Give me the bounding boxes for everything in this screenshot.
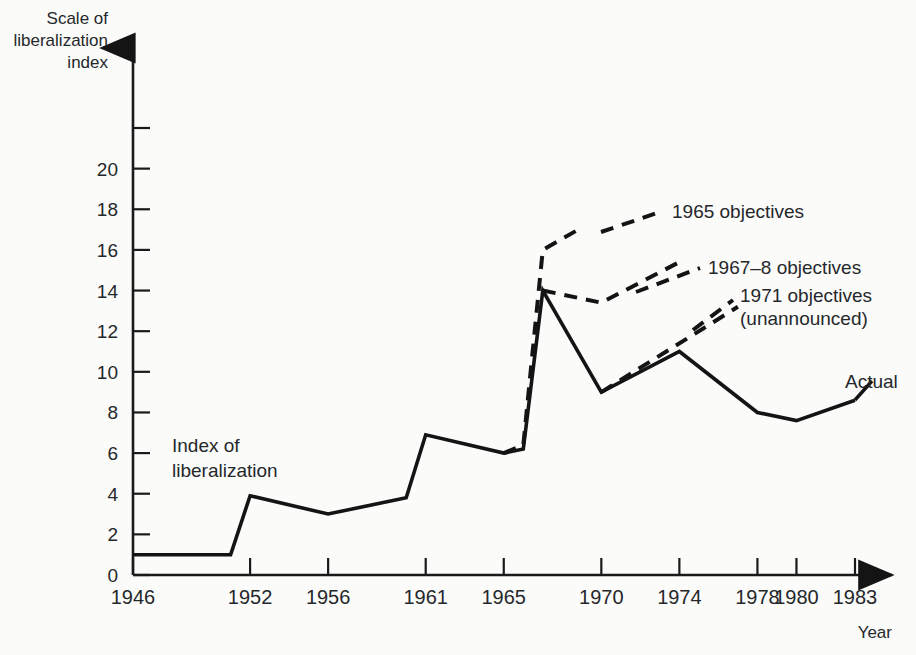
- x-tick-label-1978: 1978: [735, 586, 780, 608]
- 1965-objectives-label: 1965 objectives: [672, 201, 804, 222]
- y-tick-label-0: 0: [107, 565, 118, 586]
- x-axis-tick-labels: 1946195219561961196519701974197819801983: [111, 586, 878, 608]
- y-tick-label-6: 6: [107, 443, 118, 464]
- actual-label: Actual: [845, 371, 898, 392]
- y-axis-title-line-2: liberalization: [14, 31, 109, 50]
- 1971-objectives-label-line-2: (unannounced): [740, 308, 868, 329]
- y-tick-label-12: 12: [97, 321, 118, 342]
- x-tick-label-1946: 1946: [111, 586, 156, 608]
- y-axis-ticks: [133, 128, 150, 575]
- inner-note-line-1: Index of: [172, 435, 240, 456]
- y-axis-title-line-3: index: [67, 53, 108, 72]
- x-tick-label-1961: 1961: [403, 586, 448, 608]
- x-tick-label-1974: 1974: [657, 586, 702, 608]
- y-axis-title-line-1: Scale of: [47, 9, 109, 28]
- leader-1971-objectives: [693, 300, 733, 330]
- y-tick-label-18: 18: [97, 199, 118, 220]
- leader-1965-objectives: [601, 211, 663, 232]
- y-tick-label-20: 20: [97, 159, 118, 180]
- chart-canvas: 02468101214161820 1946195219561961196519…: [0, 0, 916, 655]
- series-line-actual: [133, 291, 855, 555]
- x-tick-label-1956: 1956: [306, 586, 351, 608]
- x-tick-label-1970: 1970: [579, 586, 624, 608]
- leader-1967-8-objectives: [636, 268, 700, 292]
- x-tick-label-1980: 1980: [774, 586, 819, 608]
- y-tick-label-16: 16: [97, 240, 118, 261]
- 1967-8-objectives-label: 1967–8 objectives: [708, 257, 861, 278]
- x-tick-label-1952: 1952: [228, 586, 273, 608]
- y-tick-label-10: 10: [97, 362, 118, 383]
- y-tick-label-2: 2: [107, 524, 118, 545]
- x-axis-ticks: [133, 558, 855, 575]
- liberalization-index-chart: 02468101214161820 1946195219561961196519…: [0, 0, 916, 655]
- x-tick-label-1983: 1983: [833, 586, 878, 608]
- y-tick-label-4: 4: [107, 484, 118, 505]
- inner-note-line-2: liberalization: [172, 460, 278, 481]
- y-axis-tick-labels: 02468101214161820: [97, 159, 119, 586]
- x-tick-label-1965: 1965: [482, 586, 527, 608]
- y-tick-label-14: 14: [97, 281, 119, 302]
- x-axis-title: Year: [858, 623, 893, 642]
- 1971-objectives-label-line-1: 1971 objectives: [740, 285, 872, 306]
- y-tick-label-8: 8: [107, 402, 118, 423]
